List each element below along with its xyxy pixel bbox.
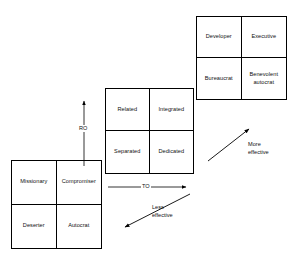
cell-related: Related [106, 89, 150, 131]
ro-axis-label: RO [78, 125, 88, 132]
grid-basic-styles: Related Integrated Separated Dedicated [105, 88, 194, 174]
cell-benevolent-autocrat-line2: autocrat [253, 79, 274, 85]
to-axis-label: TO [141, 183, 151, 190]
more-effective-line2: effective [248, 149, 269, 155]
cell-bureaucrat: Bureaucrat [197, 58, 242, 99]
more-effective-arrow [208, 129, 249, 161]
cell-compromiser: Compromiser [57, 161, 102, 205]
cell-autocrat: Autocrat [57, 205, 102, 249]
cell-separated: Separated [106, 131, 150, 173]
cell-developer: Developer [197, 17, 242, 58]
less-effective-label: Less effective [152, 204, 173, 219]
more-effective-line1: More [248, 141, 261, 147]
more-effective-label: More effective [248, 141, 269, 156]
cell-missionary: Missionary [12, 161, 57, 205]
cell-deserter: Deserter [12, 205, 57, 249]
less-effective-line2: effective [152, 212, 173, 218]
grid-less-effective-styles: Missionary Compromiser Deserter Autocrat [11, 160, 102, 249]
cell-integrated: Integrated [150, 89, 194, 131]
grid-more-effective-styles: Developer Executive Bureaucrat Benevolen… [196, 16, 287, 100]
cell-executive: Executive [242, 17, 287, 58]
diagram-canvas: Missionary Compromiser Deserter Autocrat… [0, 0, 293, 256]
less-effective-line1: Less [152, 204, 164, 210]
cell-dedicated: Dedicated [150, 131, 194, 173]
cell-benevolent-autocrat: Benevolent autocrat [242, 58, 287, 99]
cell-benevolent-autocrat-line1: Benevolent [250, 71, 279, 77]
